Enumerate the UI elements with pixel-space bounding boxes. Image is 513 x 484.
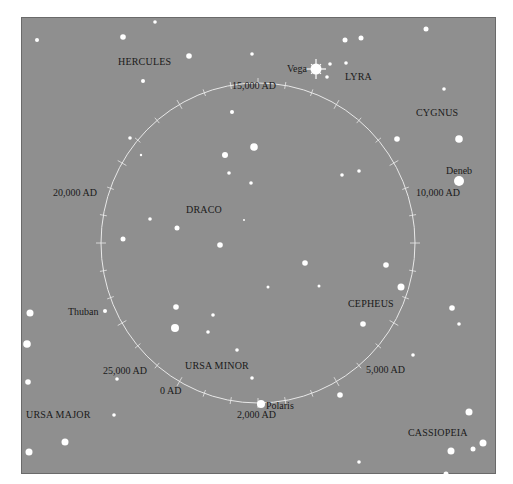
constellation-label: URSA MINOR xyxy=(185,360,249,371)
star xyxy=(121,237,126,242)
star xyxy=(337,392,343,398)
star xyxy=(471,447,476,452)
star xyxy=(27,310,34,317)
named-star-deneb: Deneb xyxy=(446,165,472,186)
star xyxy=(383,262,389,268)
star xyxy=(112,413,116,417)
labels: HERCULESLYRACYGNUSDRACOCEPHEUSURSA MINOR… xyxy=(26,56,468,438)
star xyxy=(115,377,119,381)
star xyxy=(394,136,400,142)
star xyxy=(250,376,254,380)
precession-diagram: VegaDenebThubanPolaris HERCULESLYRACYGNU… xyxy=(0,0,513,484)
star xyxy=(173,304,179,310)
date-marker-label: 10,000 AD xyxy=(416,187,460,198)
star xyxy=(25,379,31,385)
star xyxy=(357,460,361,464)
named-star-thuban: Thuban xyxy=(68,306,107,317)
tick-mark xyxy=(390,161,399,166)
star xyxy=(186,53,192,59)
star xyxy=(343,38,348,43)
star xyxy=(62,439,69,446)
constellation-label: LYRA xyxy=(345,71,373,82)
star xyxy=(328,62,332,66)
star xyxy=(449,305,455,311)
star xyxy=(35,38,39,42)
star xyxy=(230,110,234,114)
star xyxy=(211,313,215,317)
star xyxy=(480,440,487,447)
star xyxy=(206,330,210,334)
constellation-label: CEPHEUS xyxy=(348,298,394,309)
date-marker-label: 0 AD xyxy=(160,385,181,396)
star xyxy=(148,217,152,221)
constellation-label: DRACO xyxy=(186,204,222,215)
star xyxy=(340,173,344,177)
star xyxy=(153,20,157,24)
tick-mark xyxy=(334,100,339,109)
star xyxy=(455,135,463,143)
star xyxy=(23,340,31,348)
precession-path xyxy=(101,83,415,403)
star xyxy=(344,61,348,65)
star xyxy=(120,34,126,40)
star xyxy=(128,136,132,140)
tick-mark xyxy=(177,100,182,109)
star xyxy=(448,448,455,455)
star xyxy=(171,324,179,332)
date-marker-label: 5,000 AD xyxy=(366,364,405,375)
star xyxy=(318,285,321,288)
star-label: Thuban xyxy=(68,306,99,317)
star xyxy=(359,36,364,41)
star xyxy=(302,260,308,266)
date-marker-label: 15,000 AD xyxy=(232,80,276,91)
star xyxy=(217,242,223,248)
star-dot xyxy=(454,176,464,186)
star xyxy=(250,143,258,151)
star xyxy=(267,286,270,289)
date-marker-label: 20,000 AD xyxy=(53,187,97,198)
star xyxy=(444,472,449,477)
star-dot xyxy=(257,400,265,408)
star xyxy=(325,75,329,79)
named-star-vega: Vega xyxy=(287,59,326,79)
star xyxy=(235,348,239,352)
star xyxy=(360,321,366,327)
star-label: Deneb xyxy=(446,165,472,176)
star xyxy=(141,79,145,83)
tick-mark xyxy=(334,377,339,386)
star xyxy=(26,449,33,456)
star xyxy=(227,171,231,175)
date-marker-label: 2,000 AD xyxy=(237,409,276,420)
star xyxy=(398,284,405,291)
star xyxy=(457,322,461,326)
tick-mark xyxy=(118,321,127,326)
star xyxy=(140,154,142,156)
tick-mark xyxy=(118,161,127,166)
constellation-label: URSA MAJOR xyxy=(26,409,91,420)
constellation-label: HERCULES xyxy=(118,56,171,67)
star xyxy=(249,181,253,185)
star xyxy=(250,52,254,56)
star xyxy=(222,152,228,158)
named-stars: VegaDenebThubanPolaris xyxy=(68,59,472,411)
star xyxy=(175,226,180,231)
constellation-label: CASSIOPEIA xyxy=(408,427,468,438)
star-label: Vega xyxy=(287,63,308,74)
star xyxy=(411,353,415,357)
tick-mark xyxy=(390,321,399,326)
star-dot xyxy=(311,64,322,75)
star xyxy=(442,87,446,91)
precession-circle xyxy=(96,78,420,408)
star xyxy=(424,27,429,32)
star xyxy=(243,219,245,221)
star-dot xyxy=(103,309,107,313)
star xyxy=(466,409,473,416)
constellation-label: CYGNUS xyxy=(416,107,458,118)
date-marker-label: 25,000 AD xyxy=(103,365,147,376)
star xyxy=(357,169,361,173)
